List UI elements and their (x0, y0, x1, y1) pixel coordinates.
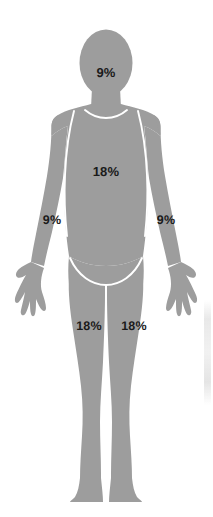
label-right-leg-18pct: 18% (76, 320, 102, 333)
label-right-arm-9pct: 9% (43, 214, 61, 227)
label-left-leg-18pct: 18% (121, 320, 147, 333)
right-arm-shape (31, 115, 68, 266)
label-head-9pct: 9% (96, 66, 115, 79)
label-trunk-18pct: 18% (93, 165, 120, 178)
left-leg-shape (107, 278, 143, 496)
label-left-arm-9pct: 9% (157, 214, 175, 227)
left-foot-shape (109, 478, 142, 502)
torso-shape (52, 104, 161, 266)
right-foot-shape (70, 478, 103, 502)
body-silhouette-group (15, 30, 197, 503)
head-shape (80, 30, 133, 97)
left-arm-shape (144, 115, 181, 266)
left-hand-shape (166, 262, 197, 316)
right-hand-shape (15, 262, 46, 316)
rule-of-nines-diagram: 9% 18% 9% 9% 18% 18% (0, 0, 213, 517)
right-leg-shape (69, 278, 105, 496)
